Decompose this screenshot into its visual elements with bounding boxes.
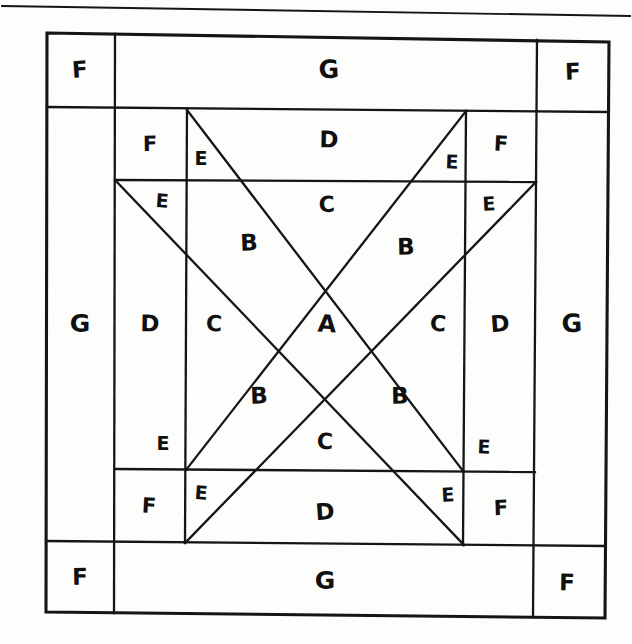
patch-label-d-left: D <box>140 310 160 336</box>
patch-label-d-top: D <box>319 126 339 152</box>
diagonal-right-top-to-left-bottom <box>185 182 536 543</box>
patch-label-c-right: C <box>429 310 447 336</box>
patch-label-g-outer-top: G <box>318 54 340 84</box>
patch-label-c-left: C <box>206 311 223 337</box>
inner-line-top-horizontal <box>115 180 536 182</box>
patch-label-e-upper-right: E <box>482 192 496 215</box>
patch-label-layer: FGFFEDEFECEBBGDCACDGBBECEFEDEFFGF <box>70 54 583 595</box>
border-line-left-vertical <box>114 34 115 613</box>
top-rule-group <box>2 6 630 16</box>
border-line-right-vertical <box>533 40 537 617</box>
patch-label-c-bottom: C <box>317 429 334 454</box>
patch-label-f-outer-bl: F <box>72 563 88 589</box>
patch-label-e-top-right: E <box>445 150 459 172</box>
patch-label-f-outer-tl: F <box>71 56 88 83</box>
patch-label-b-lower-left: B <box>250 382 268 409</box>
inner-line-left-vertical <box>185 109 187 542</box>
patch-label-e-upper-left: E <box>155 189 169 212</box>
patch-label-e-lower-right: E <box>477 435 491 457</box>
patch-label-f-inner-tl: F <box>143 132 158 156</box>
patch-label-g-left: G <box>70 309 91 338</box>
patch-label-e-top-left: E <box>195 147 208 169</box>
patch-label-b-lower-right: B <box>391 382 409 408</box>
inner-line-bottom-horizontal <box>115 469 535 472</box>
inner-line-right-vertical <box>463 111 466 545</box>
patch-label-d-bottom: D <box>314 498 335 525</box>
patch-label-f-inner-tr: F <box>493 132 509 157</box>
patch-label-f-inner-br: F <box>493 496 508 520</box>
patch-label-d-right: D <box>489 310 510 337</box>
top-rule-line <box>2 6 630 16</box>
patch-label-e-bot-left: E <box>194 481 208 504</box>
patch-label-g-outer-bot: G <box>315 566 336 595</box>
patch-label-e-lower-left: E <box>157 432 170 454</box>
patch-label-a-center: A <box>317 310 337 339</box>
patch-label-e-bot-right: E <box>441 483 455 506</box>
patch-label-f-outer-br: F <box>559 569 575 595</box>
border-line-top-horizontal <box>47 107 608 112</box>
quilt-block-diagram-page: FGFFEDEFECEBBGDCACDGBBECEFEDEFFGF <box>0 0 632 644</box>
quilt-block-svg: FGFFEDEFECEBBGDCACDGBBECEFEDEFFGF <box>0 0 632 644</box>
patch-label-b-upper-left: B <box>240 229 258 256</box>
patch-label-f-inner-bl: F <box>141 494 157 519</box>
patch-label-f-outer-tr: F <box>565 58 582 85</box>
patch-label-b-upper-right: B <box>397 233 415 259</box>
patch-label-g-right: G <box>561 308 583 338</box>
patch-label-c-top: C <box>318 191 336 217</box>
